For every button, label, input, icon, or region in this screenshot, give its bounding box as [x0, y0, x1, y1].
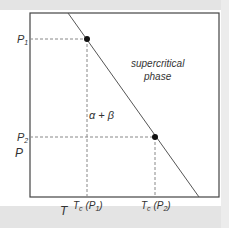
supercritical-label-line2: phase [144, 71, 171, 82]
y-axis-label: P [15, 148, 23, 159]
critical-point-p2 [152, 134, 158, 140]
x-tick-tc-p2: Tc (P2) [141, 200, 171, 214]
y-tick-p2: P2 [17, 132, 28, 146]
plot-frame [30, 13, 219, 197]
x-tick-tc-p1: Tc (P1) [73, 200, 103, 214]
critical-point-p1 [84, 36, 90, 42]
phase-diagram-canvas [0, 0, 229, 228]
y-tick-p1: P1 [17, 34, 28, 48]
two-phase-label: α + β [89, 110, 114, 121]
supercritical-label-line1: supercritical [131, 58, 184, 69]
x-axis-label: T [60, 206, 67, 217]
